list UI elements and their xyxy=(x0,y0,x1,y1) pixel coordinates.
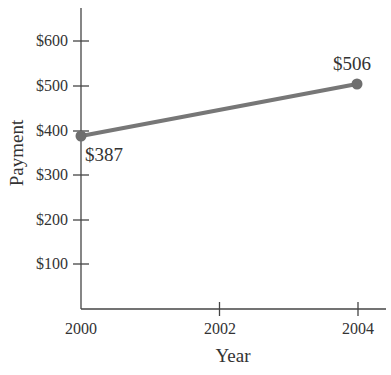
data-point-2000 xyxy=(76,131,87,142)
data-label-2000: $387 xyxy=(85,145,123,165)
line-chart: $600 $500 $400 $300 $200 $100 2000 2002 … xyxy=(0,0,391,375)
xtick-label-2004: 2004 xyxy=(328,320,388,338)
data-label-2004: $506 xyxy=(333,54,371,74)
y-axis-title: Payment xyxy=(7,108,27,198)
x-axis-title: Year xyxy=(193,346,273,366)
payment-line xyxy=(81,84,357,136)
data-point-2004 xyxy=(352,79,363,90)
ytick-label-200: $200 xyxy=(8,211,68,229)
ytick-label-100: $100 xyxy=(8,255,68,273)
xtick-label-2002: 2002 xyxy=(190,320,250,338)
ytick-label-600: $600 xyxy=(8,32,68,50)
xtick-label-2000: 2000 xyxy=(51,320,111,338)
ytick-label-500: $500 xyxy=(8,77,68,95)
